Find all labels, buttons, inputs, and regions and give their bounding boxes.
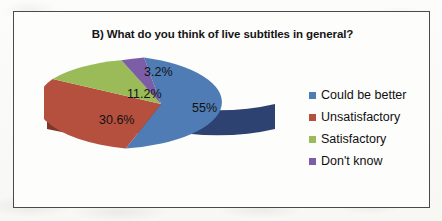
legend-item-dont-know: Don't know: [309, 150, 439, 172]
chart-title: B) What do you think of live subtitles i…: [14, 28, 431, 40]
legend-label: Don't know: [321, 154, 382, 168]
legend-swatch-icon: [309, 92, 316, 99]
chart-screenshot: B) What do you think of live subtitles i…: [0, 0, 442, 221]
data-label-unsatisfactory: 30.6%: [99, 113, 134, 127]
legend-swatch-icon: [309, 158, 316, 165]
legend-label: Satisfactory: [321, 132, 386, 146]
legend-swatch-icon: [309, 136, 316, 143]
legend-label: Unsatisfactory: [321, 110, 400, 124]
legend-label: Could be better: [321, 88, 406, 102]
chart-legend: Could be better Unsatisfactory Satisfact…: [309, 84, 439, 172]
legend-swatch-icon: [309, 114, 316, 121]
legend-item-could-be-better: Could be better: [309, 84, 439, 106]
data-label-satisfactory: 11.2%: [127, 87, 162, 101]
legend-item-unsatisfactory: Unsatisfactory: [309, 106, 439, 128]
legend-item-satisfactory: Satisfactory: [309, 128, 439, 150]
data-label-dont-know: 3.2%: [144, 65, 173, 79]
data-label-could-be-better: 55%: [192, 101, 217, 115]
chart-frame: B) What do you think of live subtitles i…: [13, 11, 430, 208]
pie-chart: 3.2% 11.2% 30.6% 55%: [44, 57, 294, 197]
